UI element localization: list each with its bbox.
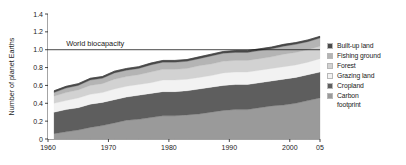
x-tick-label: 2000: [282, 144, 298, 151]
legend-item-label: Forest: [337, 61, 356, 70]
legend-item-label: Built-up land: [337, 41, 374, 50]
legend-item: Carbon footprint: [327, 91, 406, 109]
y-tick-label: 0.4: [33, 100, 43, 107]
legend-item-label: Fishing ground: [337, 51, 381, 60]
legend-swatch-icon: [327, 83, 333, 89]
legend-item: Forest: [327, 61, 406, 70]
legend-item: Built-up land: [327, 41, 406, 50]
legend-item-label: Grazing land: [337, 71, 374, 80]
chart-legend: Built-up landFishing groundForestGrazing…: [327, 41, 406, 110]
x-tick-label: 1970: [101, 144, 117, 151]
legend-swatch-icon: [327, 63, 333, 69]
y-axis-title: Number of planet Earths: [7, 37, 16, 115]
x-tick-label: 1980: [161, 144, 177, 151]
figure-root: World biocapacity 00.20.40.60.81.01.21.4…: [0, 0, 406, 165]
area-series-layer: [48, 14, 320, 139]
legend-item: Cropland: [327, 81, 406, 90]
legend-item: Grazing land: [327, 71, 406, 80]
y-tick-label: 0: [39, 136, 43, 143]
legend-item-label: Cropland: [337, 81, 364, 90]
y-tick-label: 1.4: [33, 11, 43, 18]
y-tick-label: 1.0: [33, 46, 43, 53]
legend-item: Fishing ground: [327, 51, 406, 60]
y-tick-label: 1.2: [33, 28, 43, 35]
legend-item-label: Carbon footprint: [337, 91, 361, 109]
x-tick-label: 05: [316, 144, 324, 151]
legend-swatch-icon: [327, 43, 333, 49]
legend-swatch-icon: [327, 73, 333, 79]
y-tick-label: 0.8: [33, 64, 43, 71]
world-biocapacity-label: World biocapacity: [66, 39, 124, 48]
legend-swatch-icon: [327, 53, 333, 59]
y-tick-label: 0.2: [33, 118, 43, 125]
x-tick-label: 1960: [40, 144, 56, 151]
legend-swatch-icon: [327, 93, 333, 99]
y-tick-label: 0.6: [33, 82, 43, 89]
x-tick-label: 1990: [222, 144, 238, 151]
